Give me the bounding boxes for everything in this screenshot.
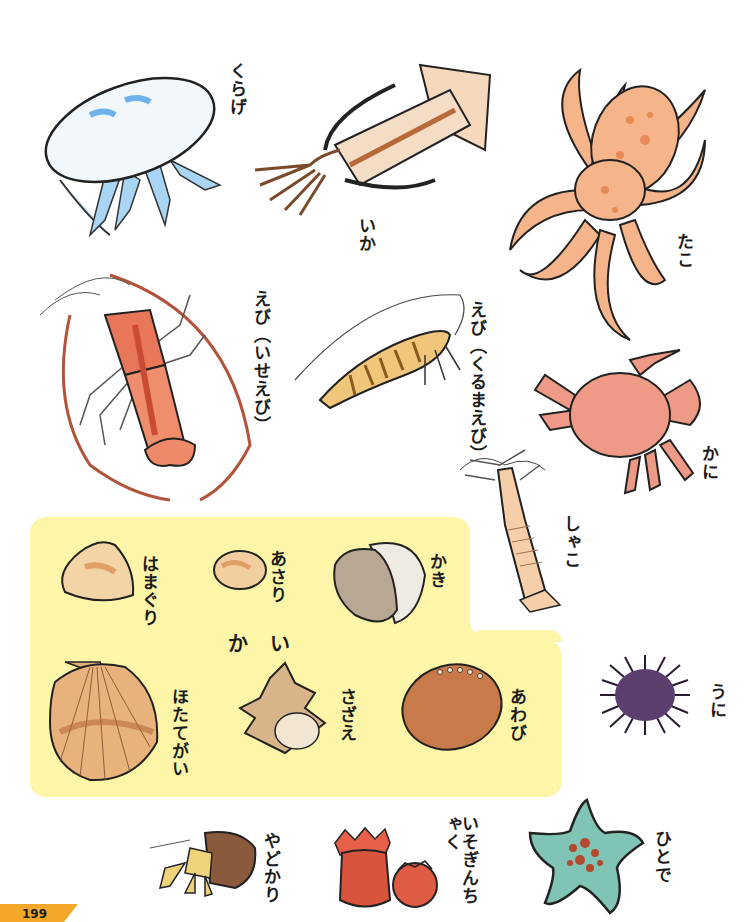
octopus-label: たこ [675,233,692,269]
abalone-label: あわび [508,688,525,742]
page-number: 199 [22,907,47,921]
hermit-crab-illustration [150,828,260,898]
turban-shell-illustration [235,663,335,758]
abalone-illustration [400,662,505,752]
mantis-shrimp-label: しゃこ [562,515,579,569]
hard-clam-illustration [55,537,145,607]
prawn-illustration [295,290,475,410]
short-neck-clam-illustration [210,548,270,593]
spiny-lobster-illustration [30,255,250,505]
sea-anemone-illustration [330,825,440,910]
scallop-label: ほたてがい [170,688,187,778]
hard-clam-label: はまぐり [140,555,157,627]
short-neck-clam-label: あさり [268,550,285,604]
crab-label: かに [700,445,717,481]
mantis-shrimp-illustration [450,440,570,615]
shellfish-section-title: かい [228,628,312,657]
jellyfish-label: くらげ [228,62,245,116]
sea-anemone-label: いそぎんちゃく [443,815,477,922]
oyster-illustration [325,535,435,625]
starfish-label: ひとで [653,830,670,884]
scallop-illustration [45,652,165,782]
turban-shell-label: さざえ [338,688,355,742]
spiny-lobster-label: えび（いせえび） [252,290,269,434]
sea-urchin-label: うに [708,683,725,719]
hermit-crab-label: やどかり [262,832,279,904]
shellfish-panel-notch-fill [470,630,562,642]
squid-label: いか [357,217,374,253]
squid-illustration [250,55,500,225]
octopus-illustration [500,60,700,350]
oyster-label: かき [428,553,445,589]
starfish-illustration [525,798,645,918]
jellyfish-illustration [30,60,230,240]
sea-urchin-illustration [600,655,690,735]
prawn-label: えび（くるまえび） [468,301,485,463]
